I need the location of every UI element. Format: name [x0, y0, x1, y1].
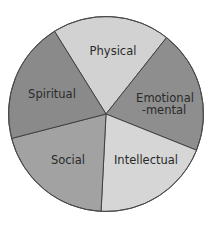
label-social: Social: [51, 153, 85, 167]
label-intellectual: Intellectual: [114, 153, 178, 167]
label-physical: Physical: [90, 44, 137, 58]
pie-chart: Physical Emotional -mental Intellectual …: [0, 0, 215, 225]
label-emotional-mental-line2: -mental: [142, 103, 186, 117]
label-spiritual: Spiritual: [28, 87, 76, 101]
